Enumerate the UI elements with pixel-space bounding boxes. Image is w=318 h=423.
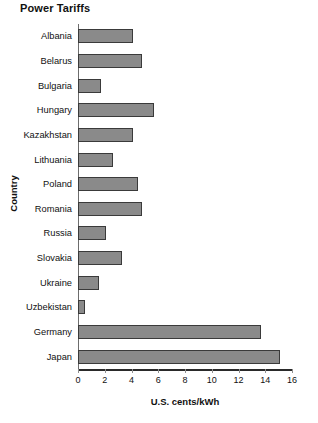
category-label: Bulgaria <box>38 81 72 91</box>
bar-row: Slovakia <box>78 246 292 271</box>
x-axis-tick <box>185 369 186 373</box>
category-label: Japan <box>47 352 72 362</box>
x-axis-tick-label: 8 <box>182 375 187 385</box>
bar <box>78 350 280 364</box>
x-axis-tick <box>132 369 133 373</box>
x-axis-tick <box>292 369 293 373</box>
category-label: Romania <box>35 204 72 214</box>
bar <box>78 153 113 167</box>
category-label: Germany <box>34 327 72 337</box>
bar-row: Albania <box>78 24 292 49</box>
y-axis-title: Country <box>8 159 19 229</box>
bar-row: Uzbekistan <box>78 295 292 320</box>
category-label: Poland <box>43 179 72 189</box>
chart-title: Power Tariffs <box>20 2 90 14</box>
bar-row: Japan <box>78 344 292 369</box>
bar <box>78 79 101 93</box>
category-label: Uzbekistan <box>26 302 72 312</box>
x-axis-tick <box>158 369 159 373</box>
x-axis-tick <box>212 369 213 373</box>
x-axis-tick-label: 16 <box>287 375 297 385</box>
bar <box>78 276 99 290</box>
category-label: Hungary <box>37 105 72 115</box>
x-axis-tick-label: 6 <box>156 375 161 385</box>
x-axis-tick-label: 12 <box>233 375 243 385</box>
bar <box>78 177 138 191</box>
bar <box>78 29 133 43</box>
bar-row: Belarus <box>78 49 292 74</box>
x-axis-tick-label: 14 <box>260 375 270 385</box>
x-axis-title: U.S. cents/kWh <box>78 396 292 407</box>
x-axis-tick <box>239 369 240 373</box>
category-label: Belarus <box>40 56 72 66</box>
bar-row: Romania <box>78 197 292 222</box>
category-label: Kazakhstan <box>23 130 72 140</box>
x-axis-tick <box>265 369 266 373</box>
bar <box>78 128 133 142</box>
bar-row: Bulgaria <box>78 73 292 98</box>
bar <box>78 325 261 339</box>
plot-area: U.S. cents/kWh AlbaniaBelarusBulgariaHun… <box>78 24 292 369</box>
x-axis-tick-label: 2 <box>102 375 107 385</box>
bar-row: Hungary <box>78 98 292 123</box>
bar-row: Russia <box>78 221 292 246</box>
bar <box>78 103 154 117</box>
x-axis-tick <box>105 369 106 373</box>
category-label: Slovakia <box>37 253 72 263</box>
x-axis-tick-label: 10 <box>207 375 217 385</box>
category-label: Lithuania <box>34 155 72 165</box>
category-label: Albania <box>41 31 72 41</box>
bar-row: Poland <box>78 172 292 197</box>
bar-row: Kazakhstan <box>78 123 292 148</box>
bar <box>78 300 85 314</box>
bar <box>78 202 142 216</box>
bar-row: Ukraine <box>78 270 292 295</box>
bar <box>78 226 106 240</box>
power-tariffs-chart: Power Tariffs Country U.S. cents/kWh Alb… <box>0 0 318 423</box>
category-label: Russia <box>44 228 72 238</box>
bar-row: Lithuania <box>78 147 292 172</box>
bar <box>78 54 142 68</box>
category-label: Ukraine <box>40 278 72 288</box>
bar <box>78 251 122 265</box>
x-axis-tick-label: 4 <box>129 375 134 385</box>
x-axis-tick <box>78 369 79 373</box>
x-axis-tick-label: 0 <box>75 375 80 385</box>
bar-row: Germany <box>78 320 292 345</box>
